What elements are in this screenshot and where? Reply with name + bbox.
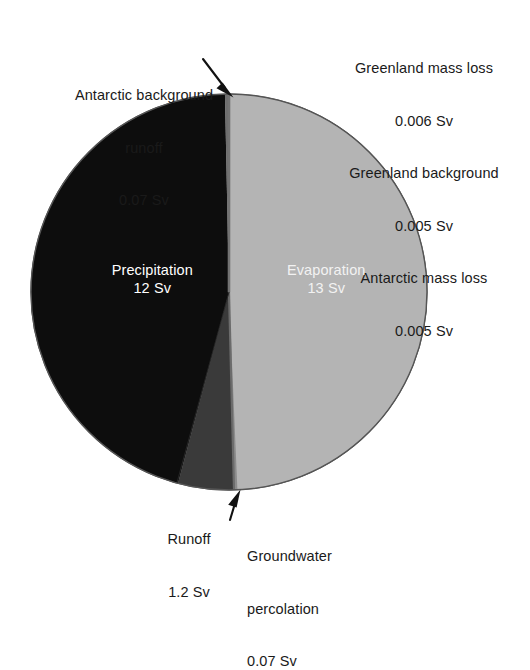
label-greenland-mass-loss-value: 0.006 Sv [318, 113, 530, 131]
label-groundwater-percolation-line1: Groundwater [247, 548, 427, 566]
label-precipitation-name: Precipitation [112, 262, 193, 278]
label-antarctic-background-runoff-line2: runoff [44, 140, 244, 158]
label-antarctic-background-runoff-line1: Antarctic background [44, 87, 244, 105]
label-antarctic-background-runoff: Antarctic background runoff 0.07 Sv [44, 52, 244, 245]
label-runoff: Runoff 1.2 Sv [143, 496, 235, 636]
label-evaporation-value: 13 Sv [307, 280, 345, 296]
label-antarctic-mass-loss-value: 0.005 Sv [318, 323, 530, 341]
label-groundwater-percolation-line2: percolation [247, 601, 427, 619]
label-greenland-mass-loss: Greenland mass loss [318, 60, 530, 78]
label-greenland-background: Greenland background [318, 165, 530, 183]
label-evaporation: Evaporation 13 Sv [238, 243, 398, 315]
label-groundwater-percolation: Groundwater percolation 0.07 Sv [247, 513, 427, 670]
label-antarctic-background-runoff-value: 0.07 Sv [44, 192, 244, 210]
label-precipitation: Precipitation 12 Sv [64, 243, 224, 315]
label-runoff-value: 1.2 Sv [143, 584, 235, 602]
label-evaporation-name: Evaporation [287, 262, 366, 278]
label-groundwater-percolation-value: 0.07 Sv [247, 653, 427, 670]
label-greenland-background-value: 0.005 Sv [318, 218, 530, 236]
label-runoff-name: Runoff [143, 531, 235, 549]
label-right-stack: Greenland mass loss 0.006 Sv Greenland b… [318, 25, 530, 375]
label-precipitation-value: 12 Sv [133, 280, 171, 296]
